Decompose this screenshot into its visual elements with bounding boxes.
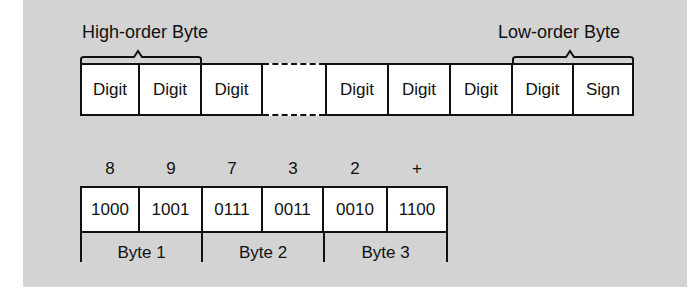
binary-code-cell: 1001 (138, 186, 203, 233)
high-order-byte-label: High-order Byte (82, 22, 208, 43)
digit-value: 7 (202, 159, 262, 179)
byte-1-label: Byte 1 (82, 243, 201, 263)
digit-cell: Digit (80, 63, 140, 116)
digit-value: 9 (141, 159, 201, 179)
sign-value: + (387, 159, 447, 179)
binary-code-cell: 0111 (201, 186, 263, 233)
binary-code-cell: 1000 (80, 186, 140, 233)
digit-cell: Digit (511, 63, 574, 116)
byte-divider (446, 231, 448, 262)
low-order-byte-label: Low-order Byte (498, 22, 620, 43)
binary-code-cell: 0010 (322, 186, 388, 233)
byte-3-label: Byte 3 (325, 243, 446, 263)
byte-2-label: Byte 2 (203, 243, 323, 263)
digit-cell: Digit (138, 63, 202, 116)
ellipsis-gap (263, 63, 325, 116)
digit-value: 2 (325, 159, 385, 179)
digit-value: 8 (80, 159, 140, 179)
digit-cell: Digit (387, 63, 451, 116)
digit-cell: Digit (449, 63, 513, 116)
digit-value: 3 (263, 159, 323, 179)
sign-cell: Sign (572, 63, 634, 116)
sign-code-cell: 1100 (386, 186, 448, 233)
binary-code-cell: 0011 (261, 186, 324, 233)
digit-cell: Digit (200, 63, 263, 116)
digit-cell: Digit (325, 63, 389, 116)
